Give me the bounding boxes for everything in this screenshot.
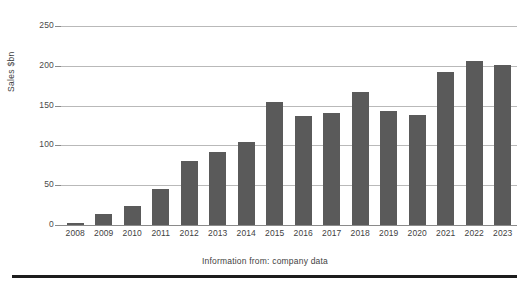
bar-slot xyxy=(61,18,90,225)
bar-2017 xyxy=(323,113,340,225)
bar-slot xyxy=(261,18,290,225)
bar-slot xyxy=(432,18,461,225)
plot-area xyxy=(61,18,517,225)
bar-2019 xyxy=(380,111,397,225)
bar-slot xyxy=(232,18,261,225)
bar-2023 xyxy=(494,65,511,225)
y-tick-label-100: 100 xyxy=(18,139,54,149)
x-tick-label-2016: 2016 xyxy=(289,228,318,238)
bar-slot xyxy=(118,18,147,225)
x-tick-label-2013: 2013 xyxy=(204,228,233,238)
x-tick-label-2018: 2018 xyxy=(346,228,375,238)
bar-slot xyxy=(289,18,318,225)
x-tick-label-2022: 2022 xyxy=(460,228,489,238)
x-tick-label-2017: 2017 xyxy=(318,228,347,238)
x-tick-label-2015: 2015 xyxy=(261,228,290,238)
source-note: Information from: company data xyxy=(0,256,530,266)
bar-2022 xyxy=(466,61,483,225)
x-tick-label-2021: 2021 xyxy=(432,228,461,238)
x-tick-label-2023: 2023 xyxy=(489,228,518,238)
bar-2009 xyxy=(95,214,112,225)
bar-2013 xyxy=(209,152,226,225)
y-tick-label-150: 150 xyxy=(18,100,54,110)
bar-2018 xyxy=(352,92,369,225)
y-tick-label-250: 250 xyxy=(18,20,54,30)
gridline-0 xyxy=(61,225,517,226)
bar-slot xyxy=(90,18,119,225)
bottom-divider xyxy=(12,275,517,278)
bar-2008 xyxy=(67,223,84,225)
bar-slot xyxy=(375,18,404,225)
bar-2016 xyxy=(295,116,312,225)
y-tick-label-200: 200 xyxy=(18,60,54,70)
bar-2015 xyxy=(266,102,283,225)
x-tick-label-2011: 2011 xyxy=(147,228,176,238)
bar-slot xyxy=(460,18,489,225)
x-tick-label-2009: 2009 xyxy=(90,228,119,238)
bar-2010 xyxy=(124,206,141,225)
x-tick-label-2019: 2019 xyxy=(375,228,404,238)
bar-slot xyxy=(147,18,176,225)
x-tick-label-2010: 2010 xyxy=(118,228,147,238)
x-tick-label-2020: 2020 xyxy=(403,228,432,238)
bar-2021 xyxy=(437,72,454,225)
bar-slot xyxy=(204,18,233,225)
x-tick-label-2012: 2012 xyxy=(175,228,204,238)
bar-2020 xyxy=(409,115,426,225)
bar-2014 xyxy=(238,142,255,225)
bar-group xyxy=(61,18,517,225)
bar-slot xyxy=(175,18,204,225)
bar-slot xyxy=(489,18,518,225)
x-axis-tick-group: 2008200920102011201220132014201520162017… xyxy=(61,228,517,238)
bar-slot xyxy=(403,18,432,225)
y-tick-label-0: 0 xyxy=(18,219,54,229)
x-tick-label-2014: 2014 xyxy=(232,228,261,238)
chart-figure: Sales $bn 050100150200250 20082009201020… xyxy=(0,0,530,289)
bar-2011 xyxy=(152,189,169,225)
x-tick-label-2008: 2008 xyxy=(61,228,90,238)
bar-slot xyxy=(318,18,347,225)
bar-slot xyxy=(346,18,375,225)
y-tick-label-50: 50 xyxy=(18,179,54,189)
bar-2012 xyxy=(181,161,198,225)
